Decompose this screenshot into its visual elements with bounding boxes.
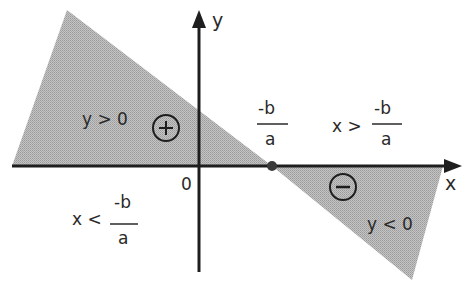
x-axis-label: x [445, 172, 456, 194]
positive-condition-label: y > 0 [82, 109, 128, 129]
negative-x-condition-denominator: a [381, 129, 391, 149]
positive-x-condition-numerator: -b [114, 192, 131, 212]
root-point [267, 161, 277, 171]
negative-x-condition-numerator: -b [374, 98, 391, 118]
sign-diagram: y x 0 y > 0 -b a x > -b a x < -b a y < 0 [0, 0, 463, 292]
root-numerator: -b [258, 98, 275, 118]
positive-x-condition-denominator: a [118, 228, 128, 248]
negative-condition-label: y < 0 [367, 214, 413, 234]
y-axis-arrow-icon [192, 10, 206, 28]
origin-label: 0 [181, 174, 192, 194]
root-denominator: a [265, 129, 275, 149]
positive-region [12, 10, 272, 166]
x-axis-arrow-icon [444, 159, 462, 173]
negative-region [272, 166, 443, 280]
y-axis-label: y [212, 9, 223, 31]
negative-x-condition-prefix: x > [332, 116, 362, 136]
positive-x-condition-prefix: x < [72, 209, 102, 229]
